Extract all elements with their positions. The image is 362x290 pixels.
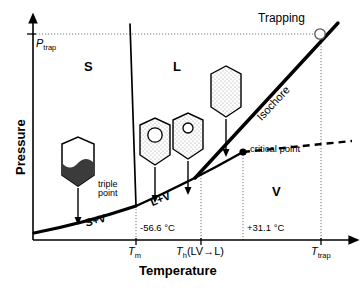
ptrap-subscript: trap bbox=[43, 43, 56, 52]
annotation-triple-point: triple point bbox=[98, 180, 118, 198]
inclusion-homogeneous-liquid-outline bbox=[211, 66, 241, 117]
x-tick-label-th: Th(LV→L) bbox=[176, 246, 224, 260]
x-axis-title: Temperature bbox=[139, 264, 217, 278]
ttrap-variable: T bbox=[311, 245, 318, 257]
inclusion-liquid-vapor-small-bubble bbox=[183, 123, 193, 133]
region-label-vapor: V bbox=[272, 185, 281, 199]
tick-value-tm: -56.6 °C bbox=[140, 223, 175, 233]
annotation-trapping: Trapping bbox=[258, 12, 305, 25]
phase-diagram-figure: Pressure Temperature Ptrap S L V S+V L+V… bbox=[0, 0, 362, 290]
y-axis-title: Pressure bbox=[14, 119, 28, 175]
y-tick-label-ptrap: Ptrap bbox=[36, 38, 56, 52]
critical-point-marker bbox=[239, 148, 246, 155]
ttrap-subscript: trap bbox=[318, 251, 331, 260]
inclusion-solid-vapor bbox=[62, 137, 94, 218]
tick-value-tcrit: +31.1 °C bbox=[247, 223, 284, 233]
inclusion-homogeneous-liquid bbox=[211, 66, 241, 150]
triple-point-line2: point bbox=[98, 189, 118, 198]
trapping-point-marker bbox=[315, 29, 325, 39]
inclusion-liquid-vapor-large-bubble bbox=[140, 118, 170, 196]
annotation-critical-point: critical point bbox=[250, 144, 300, 154]
region-label-solid: S bbox=[84, 60, 93, 74]
region-label-liquid: L bbox=[173, 60, 181, 74]
th-suffix: (LV→L) bbox=[187, 245, 224, 257]
inclusion-liquid-vapor-large-bubble bbox=[148, 128, 162, 142]
th-variable: T bbox=[176, 245, 183, 257]
melting-curve bbox=[130, 24, 136, 206]
tm-subscript: m bbox=[135, 251, 141, 260]
x-tick-label-ttrap: Ttrap bbox=[311, 246, 331, 260]
tm-variable: T bbox=[128, 245, 135, 257]
inclusion-liquid-vapor-small-outline bbox=[173, 113, 203, 159]
x-tick-label-tm: Tm bbox=[128, 246, 141, 260]
